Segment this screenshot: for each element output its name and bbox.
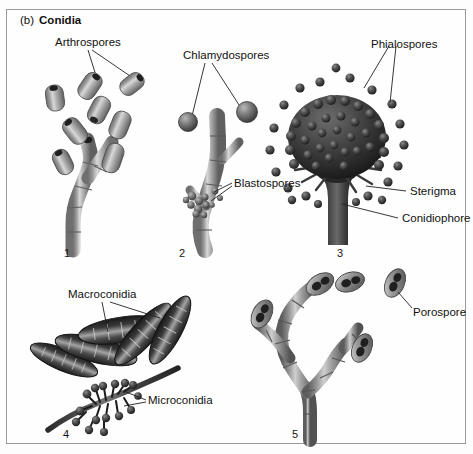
panel-number-2: 2	[179, 247, 185, 259]
figure-conidia: (b)Conidia	[0, 0, 473, 454]
label-arthrospores: Arthrospores	[55, 36, 121, 48]
label-microconidia: Microconidia	[148, 394, 213, 406]
panel-number-5: 5	[292, 428, 298, 440]
label-phialospores: Phialospores	[371, 38, 437, 50]
chlamydospore-terminal	[237, 102, 258, 123]
leader-line-sterigma	[366, 186, 406, 191]
panel-number-3: 3	[337, 247, 343, 259]
label-chlamydospores: Chlamydospores	[183, 49, 269, 61]
leader-lines-phialospores	[364, 46, 396, 103]
panel-1-arthrospores	[44, 50, 147, 250]
panel-3-conidiophore	[265, 46, 408, 245]
chlamydospore-free	[179, 113, 198, 132]
label-macroconidia: Macroconidia	[68, 288, 136, 300]
microconidia-cluster	[72, 379, 142, 436]
panel-4-macroconidia	[27, 291, 199, 436]
leader-line-porospore	[398, 292, 412, 308]
panel-number-4: 4	[63, 428, 69, 440]
leader-line-conidiophore	[342, 204, 398, 218]
porospore	[333, 268, 367, 295]
panel-number-1: 1	[64, 247, 70, 259]
panel-5-porospores	[247, 265, 412, 440]
hypha-with-chlamydospores	[179, 102, 258, 251]
porospore-free	[247, 296, 278, 331]
label-blastospores: Blastospores	[234, 177, 300, 189]
porospore-labeled	[380, 265, 410, 300]
panel-2-chlamydospores	[179, 63, 258, 250]
label-porospore: Porospore	[413, 306, 466, 318]
label-conidiophore: Conidiophore	[402, 212, 470, 224]
illustration-canvas	[0, 0, 473, 454]
label-sterigma: Sterigma	[410, 185, 456, 197]
